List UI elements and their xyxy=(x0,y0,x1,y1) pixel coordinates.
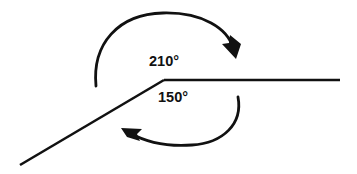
angle-diagram: 210° 150° xyxy=(0,0,357,174)
upper-arc-arrowhead-icon xyxy=(222,35,241,59)
lower-angle-label: 150° xyxy=(158,89,188,105)
lower-arc-arrowhead-icon xyxy=(121,128,142,141)
angle-diagram-canvas: 210° 150° xyxy=(0,0,357,174)
upper-angle-label: 210° xyxy=(149,53,179,69)
slanted-ray xyxy=(20,80,164,165)
upper-arc-210-degrees xyxy=(96,13,233,86)
